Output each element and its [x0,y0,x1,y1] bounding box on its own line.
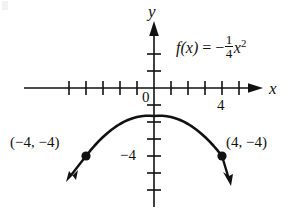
function-formula: f(x) = −14x2 [176,33,246,61]
formula-denominator: 4 [225,46,234,60]
right-point-label: (4, −4) [226,135,267,150]
parabola-figure: y x 0 4 −4 (−4, −4) (4, −4) f(x) = −14x2 [0,0,288,208]
formula-function-name: f(x) [176,39,198,56]
y-axis-arrowhead [149,21,159,36]
x-axis-arrowhead [248,83,263,93]
formula-numerator: 1 [225,33,234,46]
formula-sign: − [215,39,224,56]
origin-label: 0 [142,90,150,105]
left-endpoint-arrowhead [66,170,78,182]
left-point-label: (−4, −4) [10,135,59,150]
left-endpoint-dot [81,151,90,160]
formula-exponent: 2 [241,37,246,49]
x-axis-label: x [269,80,277,97]
formula-variable: x [234,39,241,56]
right-endpoint-dot [217,151,226,160]
y-tick-label-minus4: −4 [120,148,136,163]
y-axis-label: y [148,3,156,20]
formula-fraction: 14 [225,33,234,61]
formula-equals: = [202,39,211,56]
x-tick-label-4: 4 [217,98,225,113]
